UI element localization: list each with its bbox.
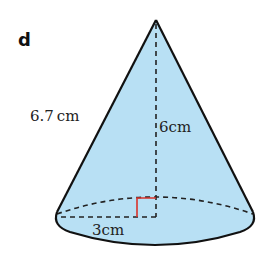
part-label: d [18, 29, 31, 50]
cone-body [56, 20, 254, 245]
radius-label: 3cm [92, 221, 124, 239]
cone-diagram: d 6.7 cm 6cm 3cm [0, 0, 273, 277]
slant-height-label: 6.7 cm [30, 107, 79, 125]
height-label: 6cm [159, 118, 191, 136]
